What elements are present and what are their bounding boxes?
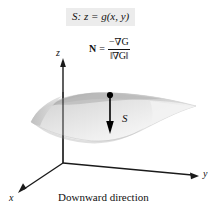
axis-x: [18, 163, 63, 193]
normal-vector-numerator: −∇G: [108, 37, 130, 48]
surface-equation-body: z = g(x, y): [84, 10, 129, 22]
diagram-canvas: [0, 0, 219, 215]
surface-equation-label: S: z = g(x, y): [66, 8, 135, 26]
normal-vector-formula: N = −∇G ‖∇G‖: [89, 37, 130, 62]
surface-name-label: S: [122, 113, 128, 124]
normal-vector-denominator: ‖∇G‖: [109, 51, 129, 62]
surface-equation-prefix: S:: [72, 10, 81, 22]
axis-label-x: x: [9, 193, 13, 203]
math-figure: S: z = g(x, y) N = −∇G ‖∇G‖ z y x S Down…: [0, 0, 219, 215]
normal-vector-symbol: N: [89, 44, 96, 54]
axis-y: [63, 163, 199, 179]
surface-s: [31, 93, 196, 144]
axis-label-z: z: [56, 48, 60, 58]
normal-vector-fraction: −∇G ‖∇G‖: [108, 37, 130, 62]
figure-caption: Downward direction: [58, 192, 149, 203]
axis-label-y: y: [203, 169, 207, 179]
normal-vector-equals: =: [98, 44, 106, 54]
